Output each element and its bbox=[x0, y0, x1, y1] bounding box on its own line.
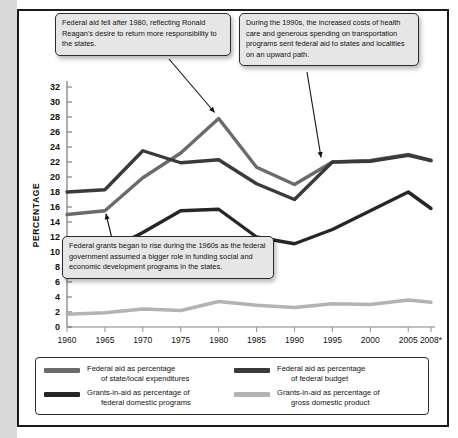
y-tick-label: 22 bbox=[50, 157, 60, 167]
y-tick-label: 10 bbox=[50, 247, 60, 257]
y-tick-label: 20 bbox=[50, 172, 60, 182]
legend-label-line1: Grants-in-aid as percentage of bbox=[87, 388, 190, 397]
y-tick-label: 26 bbox=[50, 127, 60, 137]
x-tick-label: 1965 bbox=[95, 335, 114, 345]
legend-item-domestic-programs: Grants-in-aid as percentage of federal d… bbox=[42, 388, 232, 409]
y-tick-label: 24 bbox=[50, 142, 60, 152]
y-tick-label: 12 bbox=[50, 232, 60, 242]
annotation-arrowhead bbox=[105, 214, 110, 220]
legend-label-domestic-programs: Grants-in-aid as percentage of federal d… bbox=[87, 388, 191, 409]
x-tick-label: 1970 bbox=[133, 335, 152, 345]
x-tick-label: 1985 bbox=[247, 335, 266, 345]
chart-page: 02468101214161820222426283032PERCENTAGE1… bbox=[0, 0, 458, 438]
y-tick-label: 28 bbox=[50, 112, 60, 122]
legend-label-federal-budget: Federal aid as percentage of federal bud… bbox=[277, 364, 365, 385]
annotation-arrowhead bbox=[318, 152, 323, 158]
y-tick-label: 6 bbox=[55, 277, 60, 287]
annotation-callout-reagan: Federal aid fell after 1980, reflecting … bbox=[55, 13, 231, 56]
series-line bbox=[67, 300, 431, 314]
legend-swatch-gdp bbox=[234, 392, 270, 397]
annotation-text: Federal aid fell after 1980, reflecting … bbox=[62, 18, 217, 48]
legend-label-line2: gross domestic product bbox=[277, 398, 380, 408]
chart-legend: Federal aid as percentage of state/local… bbox=[35, 357, 429, 415]
page-gutter bbox=[0, 0, 17, 438]
legend-label-line1: Federal aid as percentage bbox=[277, 364, 365, 373]
legend-item-state-local: Federal aid as percentage of state/local… bbox=[42, 364, 232, 385]
legend-label-line2: of state/local expenditures bbox=[87, 374, 189, 384]
y-tick-label: 30 bbox=[50, 97, 60, 107]
x-tick-label: 1995 bbox=[323, 335, 342, 345]
y-tick-label: 32 bbox=[50, 82, 60, 92]
x-tick-label: 1990 bbox=[285, 335, 304, 345]
annotation-callout-1990s: During the 1990s, the increased costs of… bbox=[239, 13, 419, 66]
legend-label-line2: of federal budget bbox=[277, 374, 365, 384]
y-tick-label: 8 bbox=[55, 262, 60, 272]
legend-label-line2: federal domestic programs bbox=[87, 398, 191, 408]
y-axis-title: PERCENTAGE bbox=[31, 183, 41, 247]
x-tick-label: 1975 bbox=[171, 335, 190, 345]
legend-swatch-domestic-programs bbox=[44, 392, 80, 397]
legend-label-gdp: Grants-in-aid as percentage of gross dom… bbox=[277, 388, 380, 409]
legend-swatch-state-local bbox=[44, 368, 80, 373]
y-tick-label: 0 bbox=[55, 322, 60, 332]
legend-swatch-federal-budget bbox=[234, 368, 270, 373]
y-tick-label: 2 bbox=[55, 307, 60, 317]
legend-item-gdp: Grants-in-aid as percentage of gross dom… bbox=[232, 388, 422, 409]
x-tick-label: 1960 bbox=[58, 335, 77, 345]
legend-label-state-local: Federal aid as percentage of state/local… bbox=[87, 364, 189, 385]
series-line bbox=[67, 119, 431, 215]
x-tick-label: 1980 bbox=[209, 335, 228, 345]
legend-label-line1: Federal aid as percentage bbox=[87, 364, 175, 373]
annotation-text: Federal grants began to rise during the … bbox=[69, 241, 265, 271]
x-tick-label: 2005 bbox=[399, 335, 418, 345]
annotation-leader-line bbox=[307, 72, 321, 158]
y-tick-label: 16 bbox=[50, 202, 60, 212]
y-tick-label: 18 bbox=[50, 187, 60, 197]
annotation-leader-line bbox=[169, 59, 215, 113]
x-tick-label: 2000 bbox=[361, 335, 380, 345]
legend-item-federal-budget: Federal aid as percentage of federal bud… bbox=[232, 364, 422, 385]
legend-label-line1: Grants-in-aid as percentage of bbox=[277, 388, 380, 397]
annotation-callout-1960s: Federal grants began to rise during the … bbox=[62, 236, 274, 279]
y-tick-label: 4 bbox=[55, 292, 60, 302]
annotation-text: During the 1990s, the increased costs of… bbox=[246, 18, 405, 59]
x-tick-label: 2008* bbox=[420, 335, 443, 345]
y-tick-label: 14 bbox=[50, 217, 60, 227]
